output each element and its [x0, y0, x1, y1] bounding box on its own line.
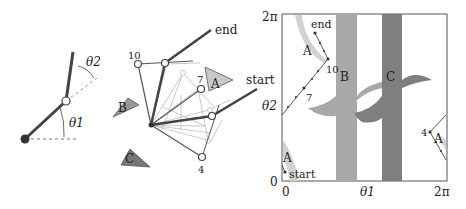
theta2-label: θ2: [86, 55, 101, 69]
end-label: end: [215, 23, 238, 37]
end-config-link2: [165, 30, 211, 63]
y-axis-max-label: 2π: [262, 10, 278, 24]
joint-10: [135, 61, 142, 68]
region-B-label: B: [340, 70, 349, 84]
workspace-panel: A B C: [113, 23, 275, 175]
figure: θ1 θ2 A B C: [0, 0, 466, 209]
obstacle-A-label: A: [210, 77, 220, 91]
y-axis-title: θ2: [262, 99, 277, 113]
config-4-link1: [151, 125, 202, 157]
cspace-panel: A A A B C end 10 7 4 start 2π 0 θ2 0 2π …: [262, 10, 450, 199]
link-extension-dashed: [66, 78, 97, 101]
joint-4: [199, 154, 206, 161]
link-2: [66, 52, 73, 101]
waypoint-7-label: 7: [197, 74, 203, 85]
link-1: [25, 101, 66, 139]
waypoint-10-label: 10: [128, 50, 141, 61]
obstacle-C-label: C: [125, 152, 134, 166]
region-C-label: C: [386, 70, 395, 84]
y-axis-min-label: 0: [270, 175, 278, 189]
start-label: start: [246, 73, 275, 87]
region-A-right-label: A: [433, 132, 443, 146]
joint-start: [209, 113, 216, 120]
workspace-base: [149, 123, 154, 128]
base-joint: [21, 135, 30, 144]
joint-7: [198, 86, 205, 93]
joint-end: [162, 60, 169, 67]
x-axis-min-label: 0: [282, 185, 290, 199]
x-axis-max-label: 2π: [434, 185, 450, 199]
cspace-start-label: start: [289, 168, 316, 181]
start-config-link2: [212, 89, 257, 116]
obstacle-B-label: B: [118, 101, 127, 115]
cspace-waypoint-4-label: 4: [421, 127, 427, 138]
cspace-end-label: end: [311, 18, 332, 31]
region-A-bottom-label: A: [282, 151, 292, 165]
elbow-joint: [62, 97, 70, 105]
waypoint-4-label: 4: [198, 164, 204, 175]
theta1-label: θ1: [69, 116, 84, 130]
arm-panel: θ1 θ2: [21, 52, 101, 144]
theta1-arc: [60, 107, 64, 137]
region-A-top-label: A: [302, 44, 312, 58]
config-10-link1: [138, 64, 151, 125]
cspace-waypoint-10-label: 10: [326, 64, 339, 75]
cspace-waypoint-7-label: 7: [306, 92, 312, 103]
x-axis-title: θ1: [360, 185, 375, 199]
